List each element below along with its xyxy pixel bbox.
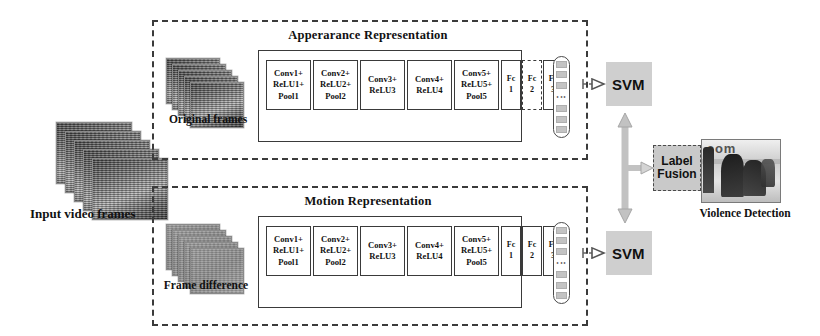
motion-block-conv5[interactable]: Conv5+ ReLU5+ Pool5 <box>454 226 499 276</box>
motion-block-fc1[interactable]: Fc 1 <box>501 226 521 276</box>
violence-detection-photo: com <box>701 139 781 203</box>
block-line: Pool2 <box>325 257 346 268</box>
block-line: Conv3+ <box>368 240 397 251</box>
block-line: Conv4+ <box>415 74 444 85</box>
feature-cell <box>556 105 567 112</box>
appearance-block-fc1[interactable]: Fc 1 <box>501 60 521 110</box>
appearance-stream-title: Apperarance Representation <box>152 28 584 43</box>
block-line: ReLU3 <box>369 85 395 96</box>
photo-figure-left <box>703 147 715 193</box>
block-line: Conv5+ <box>462 68 491 79</box>
frame-difference-label-line2: difference <box>199 279 248 291</box>
block-line: Fc <box>507 240 515 251</box>
feature-cell <box>556 248 567 255</box>
feature-cell <box>556 271 567 278</box>
block-line: ReLU3 <box>369 251 395 262</box>
block-line: ReLU5+ <box>461 245 492 256</box>
block-line: 2 <box>530 251 534 262</box>
violence-detection-caption: Violence Detection <box>690 207 800 219</box>
block-line: 1 <box>509 85 513 96</box>
block-line: ReLU1+ <box>273 245 304 256</box>
motion-svm-label: SVM <box>612 245 645 262</box>
motion-stream-title: Motion Representation <box>152 194 584 209</box>
block-line: Conv2+ <box>321 68 350 79</box>
feature-cell <box>556 292 567 299</box>
feature-cell <box>556 116 567 123</box>
block-line: ReLU4 <box>416 85 442 96</box>
feature-cell <box>556 282 567 289</box>
feature-cell <box>556 227 567 234</box>
label-fusion-line2: Fusion <box>657 168 696 181</box>
block-line: Pool1 <box>278 91 299 102</box>
appearance-block-conv3[interactable]: Conv3+ ReLU3 <box>360 60 405 110</box>
feature-cell <box>556 61 567 68</box>
motion-block-conv3[interactable]: Conv3+ ReLU3 <box>360 226 405 276</box>
frame-difference-label: Frame difference <box>156 278 256 292</box>
block-line: Conv3+ <box>368 74 397 85</box>
block-line: ReLU2+ <box>320 245 351 256</box>
feature-cell <box>556 71 567 78</box>
block-line: Fc <box>528 74 536 85</box>
feature-cell <box>556 126 567 133</box>
block-line: Conv1+ <box>274 68 303 79</box>
block-line: 1 <box>509 251 513 262</box>
appearance-block-fc2[interactable]: Fc 2 <box>522 60 542 110</box>
block-line: Conv5+ <box>462 234 491 245</box>
feature-cell <box>556 82 567 89</box>
input-video-frame-stack <box>56 122 166 218</box>
block-line: ReLU2+ <box>320 79 351 90</box>
block-line: ReLU5+ <box>461 79 492 90</box>
appearance-feature-vector: ⋮ <box>553 56 570 138</box>
block-line: Conv1+ <box>274 234 303 245</box>
photo-figure-right <box>761 159 774 188</box>
label-fusion-box[interactable]: Label Fusion <box>653 145 701 191</box>
block-line: Pool5 <box>466 257 487 268</box>
appearance-block-conv4[interactable]: Conv4+ ReLU4 <box>407 60 452 110</box>
feature-cell <box>556 237 567 244</box>
motion-block-conv2[interactable]: Conv2+ ReLU2+ Pool2 <box>313 226 358 276</box>
motion-block-conv1[interactable]: Conv1+ ReLU1+ Pool1 <box>266 226 311 276</box>
block-line: Pool1 <box>278 257 299 268</box>
block-line: ReLU4 <box>416 251 442 262</box>
appearance-block-conv5[interactable]: Conv5+ ReLU5+ Pool5 <box>454 60 499 110</box>
original-frames-label: Original frames <box>162 112 254 126</box>
photo-figure-a <box>721 154 744 197</box>
block-line: Conv2+ <box>321 234 350 245</box>
block-line: Fc <box>507 74 515 85</box>
original-frames-label-line1: Original <box>169 113 211 125</box>
block-line: 2 <box>530 85 534 96</box>
block-line: Conv4+ <box>415 240 444 251</box>
arrow-fusion-vertical <box>618 113 653 223</box>
block-line: Fc <box>528 240 536 251</box>
original-frames-label-line2: frames <box>213 113 247 125</box>
motion-feature-vector: ⋮ <box>553 222 570 304</box>
block-line: Pool2 <box>325 91 346 102</box>
feature-vector-ellipsis: ⋮ <box>559 92 565 102</box>
frame-difference-label-line1: Frame <box>164 279 197 291</box>
input-video-frames-label: Input video frames <box>30 206 135 222</box>
block-line: ReLU1+ <box>273 79 304 90</box>
feature-vector-ellipsis: ⋮ <box>559 258 565 268</box>
appearance-block-conv1[interactable]: Conv1+ ReLU1+ Pool1 <box>266 60 311 110</box>
motion-block-fc2[interactable]: Fc 2 <box>522 226 542 276</box>
block-line: Pool5 <box>466 91 487 102</box>
motion-block-conv4[interactable]: Conv4+ ReLU4 <box>407 226 452 276</box>
appearance-svm-label: SVM <box>612 76 645 93</box>
label-fusion-line1: Label <box>661 155 692 168</box>
appearance-block-conv2[interactable]: Conv2+ ReLU2+ Pool2 <box>313 60 358 110</box>
